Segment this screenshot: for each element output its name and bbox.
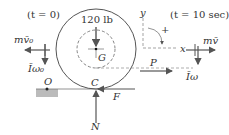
label-force-P: P (150, 58, 157, 68)
label-angular-initial: Īω₀ (28, 64, 44, 74)
label-t10: (t = 10 sec) (170, 10, 229, 20)
label-contact-C: C (91, 78, 99, 88)
label-pivot-O: O (44, 77, 52, 87)
label-weight: 120 lb (81, 15, 113, 25)
center-dot (95, 48, 98, 51)
label-normal-N: N (91, 122, 100, 132)
label-t0: (t = 0) (27, 10, 60, 20)
label-angular-final: Īω (186, 72, 198, 82)
label-momentum-final: mv̄ (203, 36, 218, 46)
positive-rotation-icon (148, 28, 162, 44)
label-friction-F: F (113, 92, 120, 102)
label-axis-y: y (140, 8, 146, 18)
pivot-point (46, 88, 49, 91)
label-momentum-initial: mv̄₀ (14, 35, 33, 45)
label-axis-x: x (180, 44, 186, 54)
label-center-G: G (98, 53, 106, 63)
label-positive: + (161, 25, 169, 35)
